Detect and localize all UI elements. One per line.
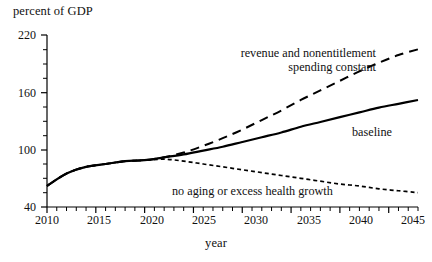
x-tick-label-2040: 2040 — [336, 213, 386, 228]
y-tick-label-160: 160 — [6, 86, 36, 101]
chart-figure: percent of GDP 40 — [0, 0, 432, 262]
x-tick-label-2035: 2035 — [284, 213, 334, 228]
annotation-dotted-series: no aging or excess health growth — [172, 185, 333, 199]
x-tick-label-2030: 2030 — [231, 213, 281, 228]
x-tick-label-2010: 2010 — [22, 213, 72, 228]
annotation-dashed-line2: spending constant — [196, 61, 376, 75]
x-tick-label-2020: 2020 — [127, 213, 177, 228]
x-tick-label-2045: 2045 — [388, 213, 432, 228]
annotation-solid-series: baseline — [352, 126, 392, 140]
annotation-dashed-series: revenue and nonentitlement spending cons… — [196, 47, 376, 74]
x-tick-label-2025: 2025 — [179, 213, 229, 228]
y-tick-label-220: 220 — [6, 28, 36, 43]
annotation-dashed-line1: revenue and nonentitlement — [196, 47, 376, 61]
x-tick-label-2015: 2015 — [74, 213, 124, 228]
series-solid-path — [47, 100, 418, 186]
y-tick-label-100: 100 — [6, 143, 36, 158]
x-axis-title: year — [0, 236, 432, 251]
